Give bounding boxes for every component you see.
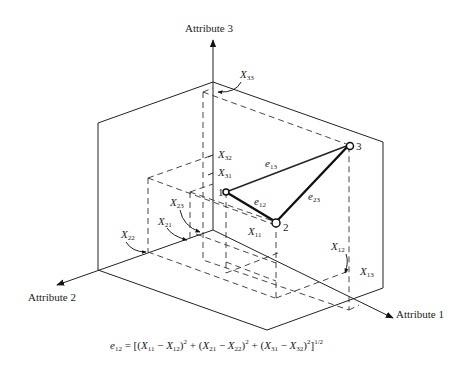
coord-x13-label: X13	[359, 265, 374, 279]
coord-x21-label: X21	[157, 215, 172, 229]
coord-x22-label: X22	[120, 228, 135, 242]
point-3	[347, 143, 354, 150]
axis-attribute-2	[57, 230, 213, 285]
coord-x11-label: X11	[247, 225, 262, 239]
euclidean-distance-3d-diagram: 1 2 3 e13 e12 e23 X33 X32 X31 X23 X21 X2…	[0, 0, 475, 371]
axis-attribute-1-label: Attribute 1	[396, 308, 444, 320]
edge-e12	[226, 192, 276, 222]
point-1-label: 1	[218, 186, 224, 198]
point-1	[223, 189, 229, 195]
coord-x23-label: X23	[169, 196, 184, 210]
axis-attribute-2-label: Attribute 2	[28, 291, 76, 303]
point-2	[272, 219, 280, 227]
axis-attribute-3-label: Attribute 3	[185, 22, 233, 34]
point-3-label: 3	[356, 140, 362, 152]
projection-point-3	[203, 88, 359, 310]
edge-e23	[276, 145, 349, 222]
left-wall	[98, 82, 213, 270]
right-wall	[213, 82, 383, 288]
projection-point-2	[190, 184, 349, 298]
edge-e13	[226, 145, 349, 192]
distance-formula: e12 = [(X11 − X12)2 + (X21 − X22)2 + (X3…	[110, 338, 324, 353]
coord-x33-label: X33	[239, 68, 254, 82]
point-2-label: 2	[283, 221, 289, 233]
coord-x12-label: X12	[330, 240, 345, 254]
floor	[98, 270, 383, 330]
coord-x31-label: X31	[217, 166, 232, 180]
edge-e23-label: e23	[308, 190, 320, 204]
edge-e12-label: e12	[254, 195, 266, 209]
edge-e13-label: e13	[265, 157, 277, 171]
coord-x32-label: X32	[217, 148, 232, 162]
